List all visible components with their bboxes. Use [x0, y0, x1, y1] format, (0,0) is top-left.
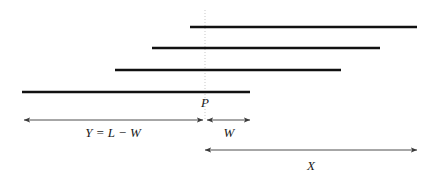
- dimension-y-group: Y = L − W: [24, 120, 203, 140]
- figure-container: P Y = L − W W X: [0, 0, 436, 178]
- dimension-x-group: X: [205, 150, 417, 173]
- dimension-w-group: W: [207, 120, 250, 140]
- interval-bars-group: [22, 27, 417, 92]
- dimension-x-label: X: [306, 158, 316, 173]
- point-p-label-group: P: [200, 95, 209, 110]
- dimension-y-label: Y = L − W: [85, 125, 142, 140]
- point-p-label: P: [200, 95, 209, 110]
- dimension-w-label: W: [224, 125, 236, 140]
- renewal-interval-diagram: P Y = L − W W X: [0, 0, 436, 178]
